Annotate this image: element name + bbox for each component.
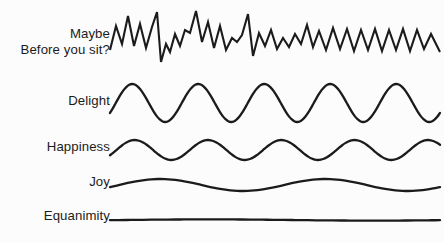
series-label-maybe-line1: Maybe	[70, 26, 110, 41]
waveform-delight	[110, 84, 440, 122]
waveform-maybe	[110, 11, 440, 62]
waveform-happiness	[110, 140, 440, 160]
series-label-delight: Delight	[68, 93, 110, 109]
series-label-maybe: Maybe Before you sit?	[21, 26, 110, 58]
series-label-maybe-line2: Before you sit?	[21, 42, 110, 58]
waveform-equanimity	[110, 219, 440, 220]
series-label-equanimity: Equanimity	[44, 208, 110, 224]
emotion-wave-diagram: Maybe Before you sit? Delight Happiness …	[0, 0, 444, 242]
waveform-joy	[110, 179, 440, 191]
series-label-joy: Joy	[89, 174, 110, 190]
series-label-happiness: Happiness	[47, 139, 110, 155]
